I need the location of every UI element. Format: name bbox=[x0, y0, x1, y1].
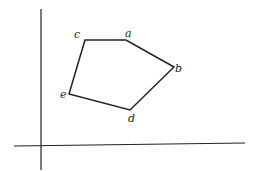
vertex-label-c: c bbox=[74, 28, 80, 41]
polygon-diagram: a b c d e bbox=[0, 0, 256, 171]
vertex-label-e: e bbox=[60, 88, 67, 101]
vertex-label-d: d bbox=[128, 112, 135, 125]
diagram-canvas: a b c d e bbox=[0, 0, 256, 171]
vertex-label-a: a bbox=[125, 27, 132, 40]
x-axis bbox=[14, 143, 245, 146]
pentagon bbox=[69, 40, 174, 110]
vertex-label-b: b bbox=[175, 62, 182, 75]
